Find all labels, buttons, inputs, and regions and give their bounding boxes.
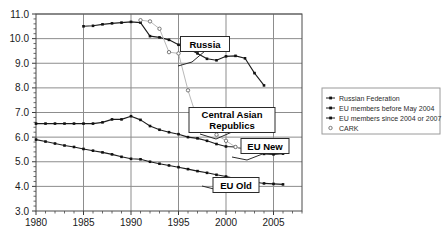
data-point-marker [158, 36, 161, 39]
data-point-marker [92, 25, 95, 28]
data-point-marker [149, 160, 152, 163]
data-point-marker [149, 35, 152, 38]
data-point-marker [44, 140, 47, 143]
chart-figure: 3.04.05.06.07.08.09.010.011.0 1980198519… [0, 0, 443, 240]
data-point-marker [177, 133, 180, 136]
data-point-marker [148, 20, 151, 23]
annotation-layer: RussiaCentral AsianRepublicsEU NewEU Old [178, 37, 289, 193]
data-point-marker [139, 158, 142, 161]
annotation-label: Republics [209, 120, 254, 131]
data-point-marker [177, 52, 180, 55]
data-point-marker [234, 55, 237, 58]
x-axis-tick-label: 1995 [167, 217, 190, 228]
data-point-marker [263, 84, 266, 87]
data-point-marker [111, 153, 114, 156]
data-point-marker [215, 133, 218, 136]
legend-item-label[interactable]: CARK [339, 125, 359, 132]
y-axis-tick-label: 5.0 [15, 156, 29, 167]
legend-swatch-marker [329, 97, 332, 100]
data-point-marker [215, 174, 218, 177]
annotation-leader-line [232, 153, 265, 160]
legend-item-label[interactable]: EU members since 2004 or 2007 [339, 115, 441, 122]
data-point-marker [196, 52, 199, 55]
data-point-marker [130, 115, 133, 118]
data-point-marker [263, 182, 266, 185]
data-point-marker [225, 145, 228, 148]
data-point-marker [215, 143, 218, 146]
data-point-marker [196, 137, 199, 140]
data-point-marker [177, 166, 180, 169]
data-point-marker [120, 118, 123, 121]
data-point-marker [139, 119, 142, 122]
x-axis-tick-label: 1985 [72, 217, 95, 228]
annotation-label: EU Old [220, 180, 252, 191]
data-point-marker [73, 122, 76, 125]
data-point-marker [82, 25, 85, 28]
data-point-marker [186, 89, 189, 92]
data-point-marker [120, 21, 123, 24]
data-point-marker [111, 118, 114, 121]
data-point-marker [206, 140, 209, 143]
data-point-marker [149, 125, 152, 128]
data-point-marker [130, 157, 133, 160]
data-point-marker [215, 59, 218, 62]
data-point-marker [206, 172, 209, 175]
data-point-marker [177, 43, 180, 46]
data-point-marker [35, 138, 38, 141]
data-point-marker [82, 148, 85, 151]
data-point-marker [187, 168, 190, 171]
legend-item-label[interactable]: EU members before May 2004 [339, 105, 434, 113]
data-point-marker [225, 55, 228, 58]
data-point-marker [167, 50, 170, 53]
x-axis-tick-label: 2005 [262, 217, 285, 228]
data-point-marker [82, 122, 85, 125]
data-point-marker [35, 122, 38, 125]
data-point-marker [63, 122, 66, 125]
data-point-marker [158, 27, 161, 30]
data-point-marker [101, 23, 104, 26]
data-point-marker [139, 18, 142, 21]
line-chart: 3.04.05.06.07.08.09.010.011.0 1980198519… [0, 0, 443, 240]
x-axis-tick-label: 2000 [215, 217, 238, 228]
y-axis-tick-label: 9.0 [15, 58, 29, 69]
data-point-marker [44, 122, 47, 125]
annotation-label: Central Asian [202, 109, 263, 120]
data-point-marker [101, 121, 104, 124]
data-point-marker [120, 156, 123, 159]
y-axis-tick-label: 10.0 [10, 33, 30, 44]
data-series-layer [35, 18, 285, 185]
data-point-marker [196, 170, 199, 173]
data-point-marker [73, 146, 76, 149]
data-point-marker [54, 122, 57, 125]
x-axis-tick-label: 1990 [120, 217, 143, 228]
data-point-marker [54, 142, 57, 145]
chart-legend[interactable]: Russian FederationEU members before May … [322, 88, 441, 134]
data-point-marker [282, 183, 285, 186]
y-axis-tick-label: 3.0 [15, 206, 29, 217]
data-point-marker [234, 145, 237, 148]
y-axis-labels: 3.04.05.06.07.08.09.010.011.0 [10, 9, 30, 217]
data-point-marker [168, 39, 171, 42]
data-point-marker [206, 58, 209, 61]
y-axis-tick-label: 4.0 [15, 181, 29, 192]
legend-item-label[interactable]: Russian Federation [339, 95, 400, 102]
data-point-marker [130, 21, 133, 24]
legend-swatch-marker [329, 107, 332, 110]
data-point-marker [101, 151, 104, 154]
data-point-marker [92, 122, 95, 125]
data-point-marker [158, 162, 161, 165]
y-axis-tick-label: 11.0 [10, 9, 29, 20]
data-point-marker [111, 22, 114, 25]
annotation-label: Russia [189, 39, 221, 50]
data-point-marker [244, 57, 247, 60]
data-point-marker [63, 144, 66, 147]
data-point-marker [272, 183, 275, 186]
y-axis-tick-label: 7.0 [15, 107, 29, 118]
series-line-russian-federation [84, 22, 265, 86]
x-axis-tick-label: 1980 [25, 217, 48, 228]
legend-swatch-marker [329, 117, 332, 120]
x-axis-labels: 198019851990199520002005 [25, 217, 285, 228]
data-point-marker [224, 139, 227, 142]
data-point-marker [253, 72, 256, 75]
data-point-marker [168, 131, 171, 134]
